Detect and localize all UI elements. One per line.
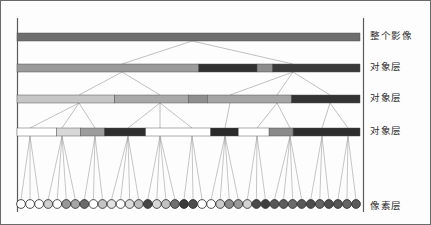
pixel-link-25 bbox=[247, 136, 257, 200]
hierarchy-diagram-figure: 整个影像 对象层 对象层 对象层 像素层 bbox=[0, 0, 431, 225]
pixel-link-19 bbox=[192, 136, 193, 200]
pixel-link-4 bbox=[57, 136, 62, 200]
pixel-link-3 bbox=[48, 136, 62, 200]
bar-segment bbox=[17, 33, 360, 41]
pixel-node bbox=[26, 200, 35, 209]
pixel-node bbox=[333, 200, 342, 209]
pixel-node bbox=[270, 200, 279, 209]
pixel-node bbox=[279, 200, 288, 209]
tree-link-layer bbox=[30, 41, 348, 128]
pixel-link-26 bbox=[256, 136, 257, 200]
bar-segment bbox=[146, 128, 211, 136]
pixel-link-28 bbox=[275, 136, 290, 200]
pixel-node bbox=[71, 200, 80, 209]
link-l2-l3-1 bbox=[62, 103, 79, 128]
pixel-node bbox=[252, 200, 261, 209]
bar-segment bbox=[238, 128, 269, 136]
link-l2-l3-5 bbox=[160, 103, 192, 128]
bar-segment bbox=[17, 128, 56, 136]
pixel-node bbox=[198, 200, 207, 209]
pixel-node bbox=[17, 200, 26, 209]
pixel-link-8 bbox=[93, 136, 95, 200]
pixel-link-17 bbox=[160, 136, 175, 200]
pixel-node bbox=[171, 200, 180, 209]
pixel-node bbox=[44, 200, 53, 209]
link-l2-l3-3 bbox=[128, 103, 160, 128]
pixel-node bbox=[62, 200, 71, 209]
pixel-node bbox=[216, 200, 225, 209]
pixel-node bbox=[143, 200, 152, 209]
pixel-link-35 bbox=[338, 136, 348, 200]
pixel-layer-row bbox=[17, 200, 361, 209]
bar-segment bbox=[56, 128, 80, 136]
pixel-node bbox=[53, 200, 62, 209]
pixel-node bbox=[306, 200, 315, 209]
diagram-canvas bbox=[0, 0, 431, 225]
pixel-node bbox=[243, 200, 252, 209]
link-l2-l3-10 bbox=[330, 103, 348, 128]
pixel-link-18 bbox=[184, 136, 192, 200]
pixel-link-36 bbox=[347, 136, 348, 200]
pixel-node bbox=[297, 200, 306, 209]
bar-segment bbox=[199, 64, 257, 72]
link-l2-l3-2 bbox=[79, 103, 95, 128]
pixel-node bbox=[161, 200, 170, 209]
pixel-link-9 bbox=[95, 136, 102, 200]
bar-segment bbox=[257, 64, 272, 72]
bar-segment bbox=[273, 64, 360, 72]
bar-segment bbox=[207, 95, 291, 103]
link-l0-l1-0 bbox=[122, 41, 192, 64]
pixel-node bbox=[180, 200, 189, 209]
bar-segment bbox=[211, 128, 238, 136]
pixel-link-30 bbox=[290, 136, 293, 200]
link-l1-l2-1 bbox=[122, 72, 160, 95]
pixel-link-34 bbox=[322, 136, 329, 200]
bar-segment bbox=[269, 128, 293, 136]
link-l2-l3-0 bbox=[30, 103, 79, 128]
pixel-node bbox=[234, 200, 243, 209]
pixel-link-0 bbox=[21, 136, 30, 200]
pixel-node bbox=[107, 200, 116, 209]
link-l2-l3-7 bbox=[257, 103, 277, 128]
pixel-fan-layer bbox=[21, 136, 356, 200]
pixel-node bbox=[343, 200, 352, 209]
pixel-node bbox=[315, 200, 324, 209]
link-l1-l2-2 bbox=[230, 72, 293, 95]
pixel-node bbox=[152, 200, 161, 209]
pixel-node bbox=[116, 200, 125, 209]
link-l1-l2-4 bbox=[293, 72, 330, 95]
link-l1-l2-0 bbox=[79, 72, 122, 95]
pixel-link-10 bbox=[112, 136, 128, 200]
bar-segment bbox=[104, 128, 145, 136]
link-l2-l3-8 bbox=[277, 103, 290, 128]
pixel-node bbox=[189, 200, 198, 209]
bar-row-whole-image-row bbox=[17, 33, 360, 41]
pixel-node bbox=[288, 200, 297, 209]
bar-segment bbox=[291, 95, 360, 103]
bar-segment bbox=[17, 95, 115, 103]
pixel-node bbox=[324, 200, 333, 209]
pixel-link-21 bbox=[211, 136, 225, 200]
bar-segment bbox=[80, 128, 104, 136]
pixel-link-7 bbox=[84, 136, 95, 200]
pixel-node bbox=[35, 200, 44, 209]
pixel-link-31 bbox=[290, 136, 302, 200]
link-l1-l2-3 bbox=[277, 72, 293, 95]
pixel-link-2 bbox=[30, 136, 39, 200]
pixel-link-22 bbox=[220, 136, 225, 200]
bar-row-object-row-3 bbox=[17, 128, 360, 136]
pixel-link-11 bbox=[121, 136, 128, 200]
bar-segment bbox=[17, 64, 199, 72]
pixel-node bbox=[98, 200, 107, 209]
pixel-node bbox=[134, 200, 143, 209]
link-l2-l3-6 bbox=[225, 103, 230, 128]
pixel-node bbox=[80, 200, 89, 209]
pixel-node bbox=[125, 200, 134, 209]
link-l0-l1-1 bbox=[192, 41, 293, 64]
link-l2-l3-9 bbox=[322, 103, 330, 128]
pixel-link-16 bbox=[160, 136, 166, 200]
pixel-node bbox=[89, 200, 98, 209]
bar-segment bbox=[189, 95, 208, 103]
bar-row-object-row-1 bbox=[17, 64, 360, 72]
pixel-node bbox=[261, 200, 270, 209]
